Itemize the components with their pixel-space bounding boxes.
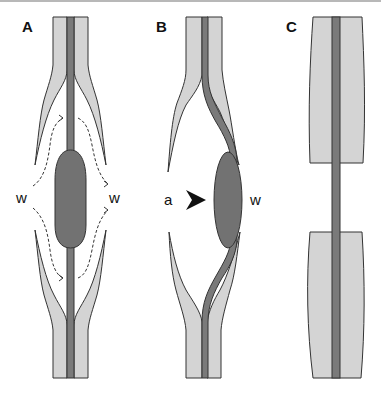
- panel-c-label: C: [286, 18, 297, 35]
- panel-a-upper-sheath-right: [74, 17, 106, 165]
- panel-c: C: [286, 17, 365, 378]
- panel-b: B a w: [156, 17, 261, 378]
- panel-a-lower-sheath-right: [74, 230, 106, 378]
- panel-b-arrow-label: a: [164, 191, 173, 208]
- diagram-canvas: A w w B: [0, 0, 381, 393]
- panel-a-lower-sheath-left: [35, 230, 67, 378]
- panel-b-flow-label-right: w: [249, 191, 261, 208]
- panel-a-upper-sheath-left: [35, 17, 67, 165]
- panel-a-label: A: [22, 18, 33, 35]
- panel-a: A w w: [15, 17, 120, 378]
- panel-b-bulge: [214, 152, 242, 248]
- panel-b-upper-sheath-right: [207, 17, 239, 165]
- panel-a-flow-label-right: w: [108, 189, 120, 206]
- panel-b-label: B: [156, 18, 167, 35]
- panel-b-arrowhead-icon: [186, 190, 206, 210]
- panel-c-core-rod: [332, 17, 340, 378]
- panel-b-upper-sheath-left: [168, 17, 202, 172]
- panel-b-lower-sheath-right: [207, 232, 240, 378]
- panel-a-bulge: [55, 150, 86, 248]
- panel-a-flow-label-left: w: [15, 189, 27, 206]
- panel-b-lower-sheath-left: [169, 232, 202, 378]
